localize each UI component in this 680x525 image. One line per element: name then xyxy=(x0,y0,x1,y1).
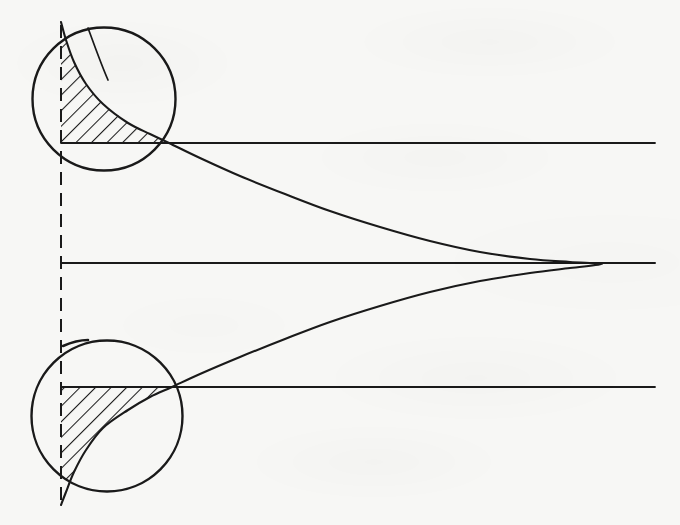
figure-canvas xyxy=(0,0,680,525)
lower-magnifier-group xyxy=(32,341,183,521)
upper-tail-pen-overshoot xyxy=(88,28,108,80)
upper-tail-area xyxy=(61,5,169,143)
figure-root xyxy=(0,0,680,525)
lower-tail-area xyxy=(61,387,172,520)
upper-magnifier-group xyxy=(33,5,176,171)
upper-magnifier-circle xyxy=(33,28,176,171)
